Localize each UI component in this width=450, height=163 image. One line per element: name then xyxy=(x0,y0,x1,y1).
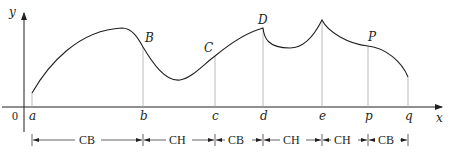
tick-p: p xyxy=(365,109,373,123)
interval-a-b-label: CB xyxy=(79,133,95,147)
tick-a: a xyxy=(29,109,36,123)
tick-c: c xyxy=(212,109,219,123)
interval-e-p-label: CH xyxy=(334,133,351,147)
interval-p-q-label: CB xyxy=(378,133,394,147)
concavity-diagram: y x 0 B C D P a b c d e p q CB CH xyxy=(0,0,450,163)
origin-label: 0 xyxy=(12,109,18,123)
interval-d-e-label: CH xyxy=(283,133,300,147)
tick-e: e xyxy=(319,109,326,123)
point-P-label: P xyxy=(367,30,377,44)
interval-b-c-label: CH xyxy=(169,133,186,147)
y-axis-label: y xyxy=(8,5,16,19)
interval-brackets: CB CH CB CH CH CB xyxy=(32,133,408,147)
function-curve xyxy=(32,20,408,93)
tick-b: b xyxy=(140,109,148,123)
tick-d: d xyxy=(260,109,268,123)
tick-q: q xyxy=(405,109,413,123)
point-B-label: B xyxy=(144,31,154,45)
interval-c-d-label: CB xyxy=(228,133,244,147)
x-axis-label: x xyxy=(436,111,443,125)
point-C-label: C xyxy=(204,41,213,55)
point-D-label: D xyxy=(257,13,268,27)
